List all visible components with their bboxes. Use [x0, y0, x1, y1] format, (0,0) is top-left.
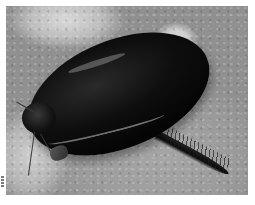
beetle-photo	[6, 6, 248, 195]
photo-credit-mark	[1, 176, 4, 188]
